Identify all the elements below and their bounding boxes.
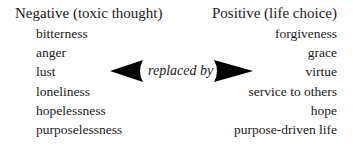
arrow-right-icon <box>213 60 253 82</box>
list-item: hope <box>234 101 337 120</box>
list-item: forgiveness <box>234 24 337 43</box>
list-item: service to others <box>234 82 337 101</box>
replaced-by-label: replaced by <box>148 62 213 80</box>
list-item: loneliness <box>36 82 122 101</box>
list-item: hopelessness <box>36 101 122 120</box>
arrow-left-icon <box>110 60 144 82</box>
list-item: purposelessness <box>36 120 122 139</box>
list-item: bitterness <box>36 24 122 43</box>
negative-heading: Negative (toxic thought) <box>15 4 162 22</box>
list-item: purpose-driven life <box>234 120 337 139</box>
positive-heading: Positive (life choice) <box>212 4 337 22</box>
